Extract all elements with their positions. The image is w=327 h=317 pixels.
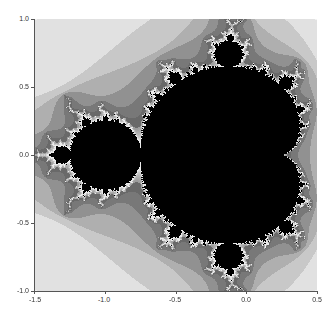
y-tick-mark bbox=[31, 155, 34, 156]
x-tick-label: 0.0 bbox=[234, 296, 258, 303]
x-tick-label: -0.5 bbox=[163, 296, 187, 303]
x-tick-mark bbox=[34, 291, 35, 294]
x-tick-label: 0.5 bbox=[305, 296, 327, 303]
y-tick-label: -0.5 bbox=[5, 219, 29, 226]
x-tick-label: -1.5 bbox=[23, 296, 47, 303]
mandelbrot-figure: 1.0 0.5 0.0 -0.5 -1.0 -1.5 -1.0 -0.5 0.0… bbox=[0, 0, 327, 317]
y-axis-line bbox=[34, 19, 35, 292]
y-tick-label: 0.0 bbox=[5, 151, 29, 158]
x-tick-mark bbox=[105, 291, 106, 294]
x-tick-label: -1.0 bbox=[92, 296, 116, 303]
y-tick-mark bbox=[31, 87, 34, 88]
y-tick-label: -1.0 bbox=[5, 287, 29, 294]
x-tick-mark bbox=[317, 291, 318, 294]
y-tick-mark bbox=[31, 19, 34, 20]
y-tick-label: 0.5 bbox=[5, 83, 29, 90]
x-tick-mark bbox=[246, 291, 247, 294]
y-tick-mark bbox=[31, 223, 34, 224]
mandelbrot-plot-area bbox=[35, 19, 317, 291]
y-tick-label: 1.0 bbox=[5, 15, 29, 22]
x-tick-mark bbox=[176, 291, 177, 294]
y-tick-mark bbox=[31, 291, 34, 292]
